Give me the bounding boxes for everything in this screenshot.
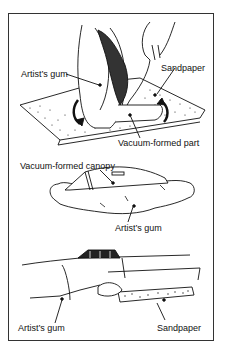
- label-vacuum-formed-part: Vacuum-formed part: [118, 138, 199, 148]
- canopy-frame: [78, 250, 120, 258]
- label-vacuum-formed-canopy: Vacuum-formed canopy: [20, 161, 115, 171]
- panel-3-art: [22, 250, 200, 323]
- illustration: [0, 0, 225, 351]
- panel-1-art: [20, 22, 205, 145]
- label-artists-gum-3: Artist’s gum: [18, 323, 65, 333]
- label-artists-gum-2: Artist’s gum: [115, 223, 162, 233]
- vacuum-formed-part: [115, 105, 162, 122]
- label-sandpaper-1: Sandpaper: [161, 63, 205, 73]
- label-sandpaper-2: Sandpaper: [157, 323, 201, 333]
- panel-2-art: [50, 167, 194, 222]
- sandpaper-strip: [118, 287, 194, 302]
- label-artists-gum-1: Artist’s gum: [21, 69, 68, 79]
